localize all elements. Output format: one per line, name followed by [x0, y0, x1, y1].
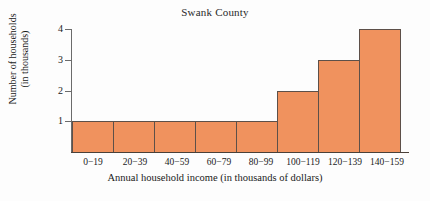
plot-area	[72, 29, 408, 152]
chart-title: Swank County	[0, 6, 430, 18]
histogram-chart: Swank County Number of households (in th…	[0, 0, 430, 201]
bar-60-79	[195, 121, 237, 152]
x-tick-label-group: 0−1920−3940−5960−7980−99100−119120−13914…	[72, 156, 408, 168]
y-tick-mark-1	[65, 121, 72, 122]
bar-80-99	[236, 121, 278, 152]
y-tick-label-1: 1	[50, 116, 63, 126]
x-tick-label-80-99: 80−99	[240, 156, 282, 168]
y-tick-mark-3	[65, 60, 72, 61]
y-axis-title-line-1: Number of households	[7, 0, 19, 120]
bar-20-39	[113, 121, 155, 152]
x-axis-line	[71, 152, 409, 153]
bar-group	[72, 29, 408, 152]
bar-140-159	[359, 29, 401, 152]
bar-120-139	[318, 60, 360, 152]
bar-100-119	[277, 91, 319, 153]
x-axis-title: Annual household income (in thousands of…	[0, 172, 430, 183]
y-tick-label-3: 3	[50, 55, 63, 65]
y-tick-label-2: 2	[50, 86, 63, 96]
y-tick-label-4: 4	[50, 24, 63, 34]
x-tick-label-0-19: 0−19	[72, 156, 114, 168]
x-tick-label-100-119: 100−119	[282, 156, 324, 168]
bar-40-59	[154, 121, 196, 152]
x-tick-label-40-59: 40−59	[156, 156, 198, 168]
x-tick-label-20-39: 20−39	[114, 156, 156, 168]
y-tick-mark-2	[65, 91, 72, 92]
y-tick-mark-4	[65, 29, 72, 30]
bar-0-19	[72, 121, 114, 152]
x-tick-label-120-139: 120−139	[324, 156, 366, 168]
x-tick-label-140-159: 140−159	[366, 156, 408, 168]
y-axis-title: Number of households (in thousands)	[7, 0, 31, 120]
x-tick-label-60-79: 60−79	[198, 156, 240, 168]
y-axis-title-line-2: (in thousands)	[19, 0, 31, 120]
